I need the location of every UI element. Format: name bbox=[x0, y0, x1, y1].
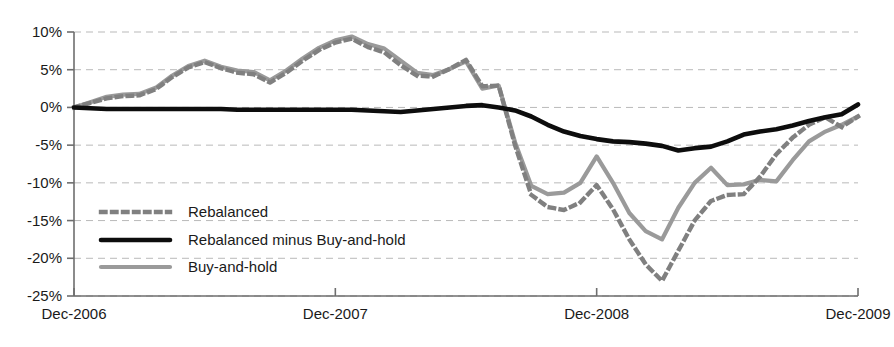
legend-label: Buy-and-hold bbox=[188, 258, 277, 275]
y-axis-tick-label: -10% bbox=[27, 174, 62, 191]
y-axis-tick-label: -25% bbox=[27, 287, 62, 304]
y-axis-tick-label: -15% bbox=[27, 212, 62, 229]
line-chart: 10%5%0%-5%-10%-15%-20%-25% Dec-2006Dec-2… bbox=[0, 0, 894, 347]
x-axis-ticks: Dec-2006Dec-2007Dec-2008Dec-2009 bbox=[41, 288, 890, 322]
chart-legend: RebalancedRebalanced minus Buy-and-holdB… bbox=[101, 203, 406, 275]
x-axis-tick-label: Dec-2006 bbox=[41, 305, 106, 322]
y-axis-tick-label: 10% bbox=[32, 23, 62, 40]
y-axis-tick-label: 0% bbox=[40, 98, 62, 115]
legend-label: Rebalanced minus Buy-and-hold bbox=[188, 231, 406, 248]
y-axis-tick-label: 5% bbox=[40, 61, 62, 78]
x-axis-tick-label: Dec-2009 bbox=[825, 305, 890, 322]
legend-label: Rebalanced bbox=[188, 203, 268, 220]
gridlines bbox=[74, 32, 858, 296]
y-axis-tick-label: -5% bbox=[35, 136, 62, 153]
y-axis-tick-label: -20% bbox=[27, 249, 62, 266]
chart-container: 10%5%0%-5%-10%-15%-20%-25% Dec-2006Dec-2… bbox=[0, 0, 894, 347]
series-line-rebalanced-minus-buy-and-hold bbox=[74, 104, 858, 150]
x-axis-tick-label: Dec-2008 bbox=[564, 305, 629, 322]
x-axis-tick-label: Dec-2007 bbox=[303, 305, 368, 322]
y-axis-ticks: 10%5%0%-5%-10%-15%-20%-25% bbox=[27, 23, 74, 304]
